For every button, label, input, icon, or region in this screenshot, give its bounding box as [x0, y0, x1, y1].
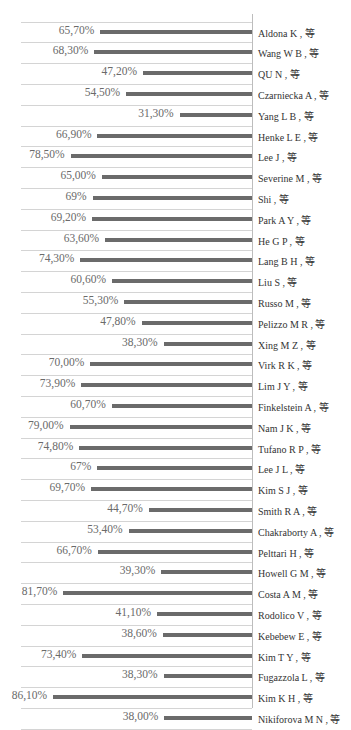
- category-label: Park A Y , 等: [258, 212, 311, 227]
- bar-row: 69,70%Kim S J , 等: [0, 479, 351, 500]
- bar-row: 66,70%Pelttari H , 等: [0, 542, 351, 563]
- bar: [164, 716, 252, 720]
- bar: [157, 612, 252, 616]
- category-label: Lee J , 等: [258, 149, 297, 164]
- bar-row: 79,00%Nam J K , 等: [0, 417, 351, 438]
- bar: [163, 633, 252, 637]
- bar-row: 38,30%Fugazzola L , 等: [0, 666, 351, 687]
- bar: [112, 404, 252, 408]
- value-label: 39,30%: [120, 564, 155, 576]
- category-label: Lim J Y , 等: [258, 378, 308, 393]
- category-label: Shi , 等: [258, 191, 289, 206]
- bar: [100, 30, 252, 34]
- category-label: Xing M Z , 等: [258, 337, 316, 352]
- bar: [142, 321, 252, 325]
- bar-row: 69,20%Park A Y , 等: [0, 209, 351, 230]
- bar: [124, 300, 252, 304]
- category-label: He G P , 等: [258, 233, 305, 248]
- value-label: 54,50%: [85, 86, 120, 98]
- value-label: 74,30%: [39, 252, 74, 264]
- category-label: Wang W B , 等: [258, 45, 319, 60]
- bar-row: 39,30%Howell G M , 等: [0, 562, 351, 583]
- bar-row: 60,70%Finkelstein A , 等: [0, 396, 351, 417]
- bar-row: 47,80%Pelizzo M R , 等: [0, 313, 351, 334]
- bar: [149, 508, 252, 512]
- value-label: 78,50%: [29, 148, 64, 160]
- category-label: Costa A M , 等: [258, 586, 318, 601]
- bar: [79, 446, 252, 450]
- value-label: 69,20%: [51, 211, 86, 223]
- bar: [97, 466, 252, 470]
- bar: [164, 342, 252, 346]
- bar-row: 55,30%Russo M , 等: [0, 292, 351, 313]
- bar-row: 68,30%Wang W B , 等: [0, 42, 351, 63]
- bar-row: 78,50%Lee J , 等: [0, 146, 351, 167]
- category-label: Virk R K , 等: [258, 357, 312, 372]
- bar: [90, 362, 252, 366]
- category-label: Lee J L , 等: [258, 461, 305, 476]
- value-label: 69%: [66, 190, 87, 202]
- category-label: Tufano R P , 等: [258, 441, 321, 456]
- value-label: 38,30%: [122, 668, 157, 680]
- value-label: 66,90%: [56, 128, 91, 140]
- value-label: 65,70%: [59, 24, 94, 36]
- value-label: 38,00%: [123, 710, 158, 722]
- bar-row: 38,60%Kebebew E , 等: [0, 625, 351, 646]
- bar: [126, 92, 252, 96]
- bar: [97, 134, 252, 138]
- value-label: 69,70%: [50, 481, 85, 493]
- value-label: 31,30%: [138, 107, 173, 119]
- bar-row: 60,60%Liu S , 等: [0, 271, 351, 292]
- bar: [81, 383, 252, 387]
- bar-row: 54,50%Czarniecka A , 等: [0, 84, 351, 105]
- bar-row: 41,10%Rodolico V , 等: [0, 604, 351, 625]
- category-label: Kim K H , 等: [258, 690, 313, 705]
- value-label: 63,60%: [64, 232, 99, 244]
- value-label: 86,10%: [12, 689, 47, 701]
- value-label: 73,40%: [41, 648, 76, 660]
- category-label: Chakraborty A , 等: [258, 524, 334, 539]
- bar-row: 81,70%Costa A M , 等: [0, 583, 351, 604]
- bar: [91, 487, 252, 491]
- bar-row: 38,30%Xing M Z , 等: [0, 334, 351, 355]
- category-label: Smith R A , 等: [258, 503, 317, 518]
- value-label: 65,00%: [60, 169, 95, 181]
- category-label: Kebebew E , 等: [258, 628, 322, 643]
- category-label: Fugazzola L , 等: [258, 669, 325, 684]
- value-label: 67%: [70, 460, 91, 472]
- bar: [180, 113, 252, 117]
- category-label: Finkelstein A , 等: [258, 399, 329, 414]
- value-label: 74,80%: [38, 440, 73, 452]
- bar: [71, 154, 252, 158]
- value-label: 79,00%: [28, 419, 63, 431]
- bar: [112, 279, 252, 283]
- bar: [161, 570, 252, 574]
- value-label: 47,80%: [100, 315, 135, 327]
- value-label: 60,70%: [70, 398, 105, 410]
- bar: [94, 50, 252, 54]
- category-label: Pelttari H , 等: [258, 545, 314, 560]
- bar: [80, 258, 252, 262]
- bar-row: 63,60%He G P , 等: [0, 230, 351, 251]
- bar: [105, 238, 252, 242]
- category-label: Rodolico V , 等: [258, 607, 322, 622]
- bar-row: 47,20%QU N , 等: [0, 63, 351, 84]
- bar-row: 73,40%Kim T Y , 等: [0, 646, 351, 667]
- bar: [98, 550, 252, 554]
- bar: [93, 196, 252, 200]
- category-label: Yang L B , 等: [258, 108, 314, 123]
- category-label: Pelizzo M R , 等: [258, 316, 326, 331]
- value-label: 38,30%: [122, 336, 157, 348]
- value-label: 53,40%: [87, 523, 122, 535]
- bar-row: 65,00%Severine M , 等: [0, 167, 351, 188]
- bar: [129, 529, 252, 533]
- value-label: 55,30%: [83, 294, 118, 306]
- bar: [82, 654, 252, 658]
- bar: [143, 71, 252, 75]
- category-label: Kim T Y , 等: [258, 649, 311, 664]
- bar-row: 67%Lee J L , 等: [0, 458, 351, 479]
- category-label: Nikiforova M N , 等: [258, 711, 341, 726]
- value-label: 60,60%: [71, 273, 106, 285]
- bar: [92, 217, 252, 221]
- bar-row: 74,80%Tufano R P , 等: [0, 438, 351, 459]
